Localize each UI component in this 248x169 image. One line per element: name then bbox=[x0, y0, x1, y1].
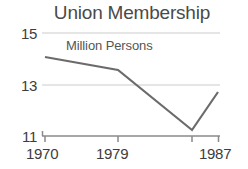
x-tick-label-1987: 1987 bbox=[199, 145, 231, 162]
x-tick-label-1979: 1979 bbox=[96, 145, 128, 162]
x-tick-label-1970: 1970 bbox=[26, 145, 58, 162]
data-series-line bbox=[45, 57, 218, 130]
union-membership-chart: Union Membership Million Persons 15 13 1… bbox=[0, 0, 248, 169]
plot-area bbox=[0, 0, 248, 169]
